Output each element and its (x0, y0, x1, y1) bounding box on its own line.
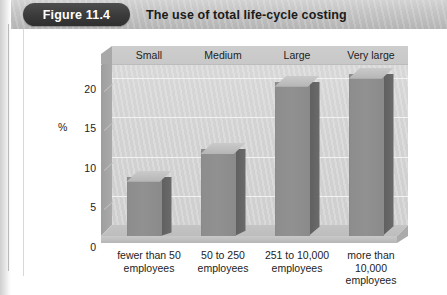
bar-side-face (383, 74, 394, 236)
category-header-3: Large (260, 47, 334, 63)
figure-page: Figure 11.4 The use of total life-cycle … (0, 0, 447, 295)
bar-front-face (275, 82, 310, 236)
bar-2 (201, 149, 235, 236)
figure-number-badge: Figure 11.4 (23, 3, 130, 26)
y-axis-tick-label: 0 (90, 241, 96, 253)
bar-side-face (161, 177, 172, 236)
y-axis-tick-label: 5 (90, 201, 96, 213)
y-axis-tick-label: 20 (84, 83, 96, 95)
bar-side-face (235, 149, 246, 236)
page-scan-edge (0, 0, 11, 295)
bar-front-face (201, 149, 236, 236)
bar-side-face (309, 82, 320, 236)
y-axis-title: % (58, 121, 67, 133)
category-header-4: Very large (334, 47, 408, 63)
x-axis-label-line-1: more than (326, 249, 416, 262)
x-axis-label-4: more than10,000employees (326, 249, 416, 287)
bar-4 (349, 74, 383, 236)
figure-title: The use of total life-cycle costing (146, 0, 347, 29)
plot-floor-front (101, 236, 397, 243)
bar-3 (275, 82, 309, 236)
figure-body-left-rule (23, 29, 24, 276)
category-header-1: Small (112, 47, 186, 63)
bar-1 (127, 177, 161, 236)
y-axis-tick-label: 15 (84, 122, 96, 134)
y-axis-tick-label: 10 (84, 162, 96, 174)
page-scan-edge-line (8, 24, 9, 271)
bar-chart: SmallMediumLargeVery large 20151050 fewe… (88, 46, 428, 246)
x-axis-label-line-2: 10,000 (326, 262, 416, 275)
bar-front-face (349, 74, 384, 236)
category-header-2: Medium (186, 47, 260, 63)
bar-front-face (127, 177, 162, 236)
x-axis-label-line-3: employees (326, 274, 416, 287)
category-strip-side (101, 46, 112, 64)
